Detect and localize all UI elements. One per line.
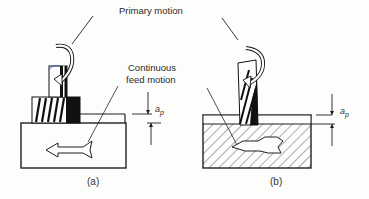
feed-arrow-a: [46, 141, 92, 158]
panel-a: [21, 16, 161, 168]
diagram-drawing: [0, 0, 369, 199]
caption-a: (a): [87, 176, 99, 187]
continuous-feed-label-line2: feed motion: [126, 74, 176, 85]
milling-diagram: Primary motion Continuous feed motion ap…: [0, 0, 369, 199]
continuous-feed-label-line1: Continuous: [128, 62, 176, 73]
workpiece-a: [21, 123, 126, 168]
depth-of-cut-label-b: ap: [340, 106, 349, 120]
primary-motion-label: Primary motion: [119, 5, 183, 16]
depth-of-cut-label-a: ap: [155, 104, 164, 118]
end-mill-b: [238, 60, 258, 125]
caption-b: (b): [270, 176, 282, 187]
primary-motion-leader-a: [72, 16, 93, 44]
panel-b: [203, 18, 335, 168]
slab-cutter-a: [32, 66, 80, 124]
